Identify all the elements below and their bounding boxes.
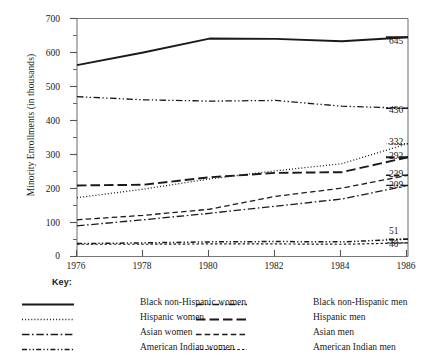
legend-label: Hispanic men: [313, 312, 366, 322]
legend-label: Asian men: [313, 327, 354, 337]
legend-label: Hispanic women: [140, 312, 204, 322]
legend-label: Asian women: [140, 327, 193, 337]
legend-label: Black non-Hispanic women: [140, 297, 246, 307]
legend-label: Black non-Hispanic men: [313, 297, 407, 307]
legend-label: American Indian women: [140, 342, 234, 352]
minority-enrollments-line-chart: Minority Enrollments (in thousands) 700 …: [0, 0, 423, 360]
legend-label: American Indian men: [313, 342, 396, 352]
